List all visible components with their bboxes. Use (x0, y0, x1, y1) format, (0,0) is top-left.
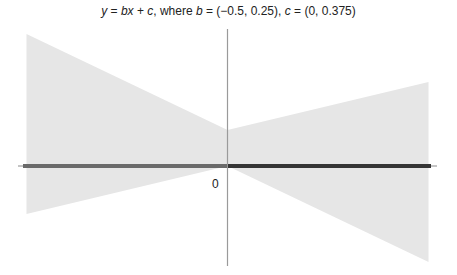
left-shaded-region (27, 34, 228, 214)
plot-area (0, 0, 457, 275)
origin-tick-label: 0 (212, 177, 219, 191)
right-shaded-region (228, 82, 429, 262)
